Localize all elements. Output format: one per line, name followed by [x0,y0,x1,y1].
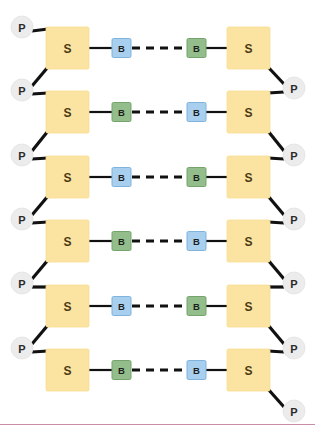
sugar-label: S [63,364,71,378]
backbone-segment-left [32,325,48,344]
base-label: B [193,172,200,183]
base-label: B [118,107,125,118]
base-label: B [193,301,200,312]
phosphate-label: P [290,406,297,418]
sugar-label: S [244,235,252,249]
phosphate-label: P [290,343,297,355]
phosphate-label: P [18,343,25,355]
sugar-label: S [63,171,71,185]
phosphate-label: P [18,150,25,162]
phosphate-label: P [18,85,25,97]
backbone-segment-right [268,131,284,151]
base-label: B [193,365,200,376]
phosphate-label: P [18,214,25,226]
sugar-label: S [63,300,71,314]
bottom-rule-divider [0,424,315,425]
sugar-label: S [244,42,252,56]
base-label: B [118,43,125,54]
backbone-segment-right [268,389,284,407]
base-pair-rungs-layer [89,48,227,370]
base-label: B [118,365,125,376]
backbone-segment-right [268,325,284,344]
base-nodes-layer: BBBBBBBBBBBB [112,39,206,380]
dna-diagram-canvas: SSSSSSSSSSSS BBBBBBBBBBBB PPPPPPPPPPPP [0,0,315,430]
phosphate-label: P [290,150,297,162]
sugar-label: S [63,42,71,56]
sugar-label: S [63,106,71,120]
phosphate-label: P [18,22,25,34]
sugar-label: S [63,235,71,249]
sugar-label: S [244,106,252,120]
sugar-label: S [244,300,252,314]
backbone-segment-right [268,260,284,279]
sugar-label: S [244,364,252,378]
backbone-segment-right [268,67,284,84]
base-label: B [118,236,125,247]
dna-structure-diagram: SSSSSSSSSSSS BBBBBBBBBBBB PPPPPPPPPPPP [0,0,315,430]
backbone-segment-left [32,67,48,86]
sugar-nodes-layer: SSSSSSSSSSSS [46,27,270,391]
base-label: B [193,236,200,247]
backbone-segment-left [32,196,48,215]
phosphate-label: P [290,278,297,290]
base-label: B [118,301,125,312]
phosphate-label: P [290,214,297,226]
base-label: B [193,43,200,54]
backbone-segment-right [268,196,284,215]
phosphate-label: P [290,83,297,95]
base-label: B [193,107,200,118]
backbone-segment-left [32,260,48,279]
backbone-segment-left [32,131,48,151]
base-label: B [118,172,125,183]
phosphate-label: P [18,278,25,290]
sugar-label: S [244,171,252,185]
